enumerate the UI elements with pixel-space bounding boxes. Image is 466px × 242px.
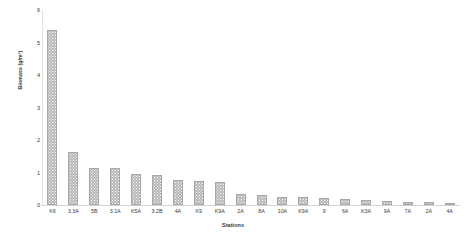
bar-slot [377, 10, 398, 205]
bar-slot [105, 10, 126, 205]
x-tick-label-17: 7A [397, 207, 418, 221]
y-axis-title: Biomass (g/m³) [17, 30, 23, 110]
bar[interactable] [382, 201, 392, 205]
x-tick-label-3: 3.1A [105, 207, 126, 221]
bar-slot [188, 10, 209, 205]
bar-slot [335, 10, 356, 205]
x-axis-line [42, 205, 460, 206]
bar[interactable] [319, 198, 329, 205]
bar-slot [251, 10, 272, 205]
bar-slot [167, 10, 188, 205]
y-tick-label-1: 1 [24, 170, 40, 176]
bar-slot [356, 10, 377, 205]
bar-slot [418, 10, 439, 205]
x-tick-label-9: 2A [230, 207, 251, 221]
x-tick-label-14: 6A [335, 207, 356, 221]
x-tick-label-12: K9A [293, 207, 314, 221]
bar[interactable] [47, 30, 57, 205]
x-tick-label-15: K3A [356, 207, 377, 221]
x-tick-label-1: 3.3A [63, 207, 84, 221]
bar[interactable] [257, 195, 267, 205]
x-tick-label-6: 4A [167, 207, 188, 221]
x-tick-label-11: 10A [272, 207, 293, 221]
bar-slot [147, 10, 168, 205]
x-tick-label-2: 5B [84, 207, 105, 221]
y-axis-tick-labels: 0123456 [24, 0, 40, 242]
bar-slot [42, 10, 63, 205]
y-tick-label-5: 5 [24, 40, 40, 46]
y-tick-label-2: 2 [24, 137, 40, 143]
bar-slot [230, 10, 251, 205]
plot-area [42, 10, 460, 206]
bar[interactable] [403, 202, 413, 205]
bar-slot [63, 10, 84, 205]
x-tick-label-7: K9 [188, 207, 209, 221]
bar[interactable] [298, 197, 308, 205]
x-tick-label-13: 9 [314, 207, 335, 221]
bar-slot [272, 10, 293, 205]
bar-slot [293, 10, 314, 205]
x-axis-tick-labels: K63.3A5B3.1AK5A3.2B4AK9K9A2A8A10AK9A96AK… [42, 207, 460, 221]
bar[interactable] [361, 200, 371, 205]
chart-figure: Biomass (g/m³) 0123456 K63.3A5B3.1AK5A3.… [0, 0, 466, 242]
bar[interactable] [89, 168, 99, 205]
y-tick-label-0: 0 [24, 202, 40, 208]
x-tick-label-19: 4A [439, 207, 460, 221]
bar-slot [84, 10, 105, 205]
y-tick-label-6: 6 [24, 7, 40, 13]
y-tick-label-3: 3 [24, 105, 40, 111]
bar[interactable] [152, 175, 162, 205]
bar[interactable] [110, 168, 120, 205]
bar[interactable] [173, 180, 183, 205]
bar-slot [397, 10, 418, 205]
bar[interactable] [236, 194, 246, 205]
bar[interactable] [445, 203, 455, 205]
bar[interactable] [68, 152, 78, 205]
bar[interactable] [215, 182, 225, 205]
bar-series [42, 10, 460, 205]
x-tick-label-18: 2A [418, 207, 439, 221]
bar-slot [209, 10, 230, 205]
bar[interactable] [340, 199, 350, 205]
x-tick-label-4: K5A [126, 207, 147, 221]
x-tick-label-8: K9A [209, 207, 230, 221]
bar-slot [314, 10, 335, 205]
bar-slot [439, 10, 460, 205]
x-tick-label-10: 8A [251, 207, 272, 221]
bar[interactable] [277, 197, 287, 205]
bar[interactable] [194, 181, 204, 205]
x-tick-label-16: 9A [377, 207, 398, 221]
bar-slot [126, 10, 147, 205]
x-axis-title: Stations [0, 222, 466, 228]
bar[interactable] [131, 174, 141, 205]
x-tick-label-0: K6 [42, 207, 63, 221]
y-tick-label-4: 4 [24, 72, 40, 78]
x-tick-label-5: 3.2B [147, 207, 168, 221]
bar[interactable] [424, 202, 434, 205]
